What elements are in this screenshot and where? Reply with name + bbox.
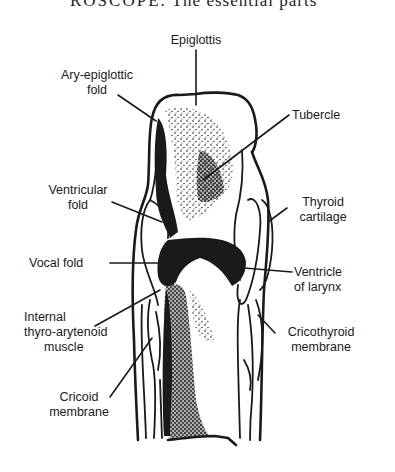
leader-cricothyroid-membrane (258, 315, 275, 333)
label-text: Ary-epiglottic (45, 68, 149, 83)
leader-ary-epiglottic-fold (118, 95, 156, 121)
label-text: Cricothyroid (275, 325, 367, 340)
label-tubercle: Tubercle (292, 108, 340, 123)
label-text: cartilage (288, 210, 358, 225)
label-text: Ventricle (294, 265, 342, 280)
label-ventricular-fold: Ventricular fold (36, 183, 120, 213)
label-text: Cricoid (42, 390, 116, 405)
label-text: fold (45, 83, 149, 98)
label-text: Epiglottis (171, 33, 222, 47)
label-text: Thyroid (288, 195, 358, 210)
label-ventricle-of-larynx: Ventricle of larynx (294, 265, 342, 295)
label-thyroid-cartilage: Thyroid cartilage (288, 195, 358, 225)
label-text: Tubercle (292, 108, 340, 122)
label-ary-epiglottic-fold: Ary-epiglottic fold (45, 68, 149, 98)
label-cricothyroid-membrane: Cricothyroid membrane (275, 325, 367, 355)
label-vocal-fold: Vocal fold (29, 256, 83, 271)
label-text: Ventricular (36, 183, 120, 198)
label-text: thyro-arytenoid (24, 325, 134, 340)
label-text: membrane (275, 340, 367, 355)
label-internal-thyro-arytenoid-muscle: Internal thyro-arytenoid muscle (24, 310, 134, 355)
label-epiglottis: Epiglottis (160, 33, 232, 48)
label-text: muscle (24, 340, 134, 355)
label-text: Vocal fold (29, 256, 83, 270)
label-text: membrane (42, 405, 116, 420)
label-text: of larynx (294, 280, 342, 295)
label-cricoid-membrane: Cricoid membrane (42, 390, 116, 420)
label-text: Internal (24, 310, 134, 325)
label-text: fold (36, 198, 120, 213)
